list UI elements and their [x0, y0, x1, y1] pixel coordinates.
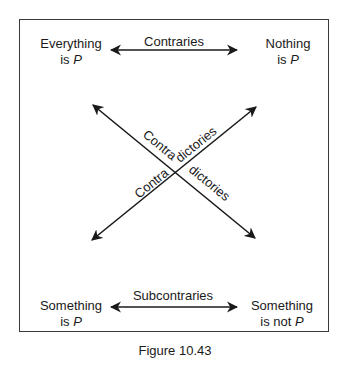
contradictories-arrow-tl-br: [93, 105, 255, 238]
label-dictories-bottom: dictories: [186, 162, 233, 205]
contradictories-arrow-bl-tr: [92, 107, 256, 240]
figure-caption: Figure 10.43: [0, 343, 350, 358]
label-dictories-top: dictories: [172, 123, 219, 165]
relation-arrows: Contra dictories Contra dictories: [0, 0, 350, 388]
label-contra-top: Contra: [140, 127, 180, 164]
label-contra-bottom: Contra: [131, 165, 171, 202]
